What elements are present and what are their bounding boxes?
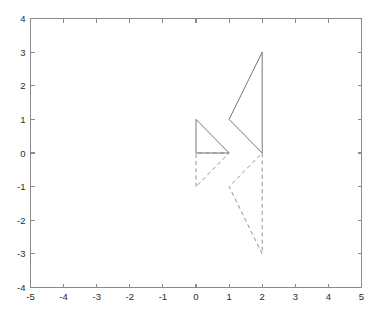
y-tick-label: 2 [20,80,25,91]
data-series-group [196,52,262,254]
x-tick-label: 1 [226,291,231,302]
x-tick-label: -1 [159,291,167,302]
large-triangle-solid [229,52,262,153]
x-tick-label: 3 [293,291,298,302]
plot-svg: -5-4-3-2-1012345 -4-3-2-101234 [0,0,379,325]
figure-canvas: -5-4-3-2-1012345 -4-3-2-101234 [0,0,379,325]
x-tick-label: 4 [326,291,331,302]
y-tick-label: -3 [17,248,25,259]
y-tick-label: -4 [17,282,25,293]
small-triangle-dashed [196,153,229,187]
x-tick-label: 2 [260,291,265,302]
x-tick-label: 5 [359,291,364,302]
y-tick-label: -2 [17,215,25,226]
x-tick-label: -5 [26,291,34,302]
y-axis-tick-labels: -4-3-2-101234 [17,13,25,293]
y-tick-label: -1 [17,181,25,192]
x-tick-label: -2 [126,291,134,302]
x-tick-label: 0 [193,291,198,302]
x-tick-label: -3 [92,291,100,302]
x-tick-label: -4 [59,291,67,302]
x-axis-tick-labels: -5-4-3-2-1012345 [26,291,364,302]
y-tick-label: 0 [20,148,25,159]
large-triangle-dashed [229,153,262,254]
small-triangle-solid [196,119,229,153]
y-tick-label: 3 [20,47,25,58]
y-tick-label: 1 [20,114,25,125]
y-tick-label: 4 [20,13,25,24]
